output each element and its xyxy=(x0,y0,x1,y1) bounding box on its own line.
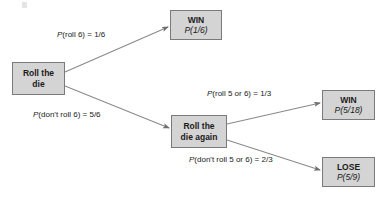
lose-outcome-line-1: P(5/9) xyxy=(337,172,360,182)
roll-the-die: Roll thedie xyxy=(12,62,65,95)
edge-dont-roll-6-label-text: (don't roll 6) = 5/6 xyxy=(38,110,100,119)
roll-the-die-line-1: die xyxy=(32,79,44,89)
win-first-roll-line-0: WIN xyxy=(188,15,205,25)
probability-tree-diagram: Roll thedieWINP(1/6)Roll thedie againWIN… xyxy=(0,0,382,200)
edge-dont-roll-5-or-6-label: P(don't roll 5 or 6) = 2/3 xyxy=(189,155,273,164)
lose-outcome: LOSEP(5/9) xyxy=(322,157,375,187)
win-second-roll-line-1: P(5/18) xyxy=(335,105,363,115)
edge-dont-roll-6-label: P(don't roll 6) = 5/6 xyxy=(33,110,101,119)
win-second-roll-line-0: WIN xyxy=(340,95,357,105)
roll-the-die-again-line-1: die again xyxy=(181,132,218,142)
roll-the-die-line-0: Roll the xyxy=(23,68,54,78)
win-first-roll: WINP(1/6) xyxy=(170,10,222,40)
roll-the-die-again-line-0: Roll the xyxy=(183,121,214,131)
edge-dont-roll-6 xyxy=(65,86,169,128)
edge-dont-roll-5-or-6-label-text: (don't roll 5 or 6) = 2/3 xyxy=(194,155,272,164)
edge-roll-6-label: P(roll 6) = 1/6 xyxy=(57,30,105,39)
win-first-roll-line-1: P(1/6) xyxy=(184,25,207,35)
edge-roll-5-or-6 xyxy=(227,103,320,124)
roll-the-die-again: Roll thedie again xyxy=(171,115,227,148)
edge-roll-5-or-6-label: P(roll 5 or 6) = 1/3 xyxy=(207,89,271,98)
win-second-roll: WINP(5/18) xyxy=(322,90,375,120)
edge-roll-5-or-6-label-text: (roll 5 or 6) = 1/3 xyxy=(212,89,271,98)
lose-outcome-line-0: LOSE xyxy=(337,162,360,172)
edge-roll-6-label-text: (roll 6) = 1/6 xyxy=(62,30,105,39)
